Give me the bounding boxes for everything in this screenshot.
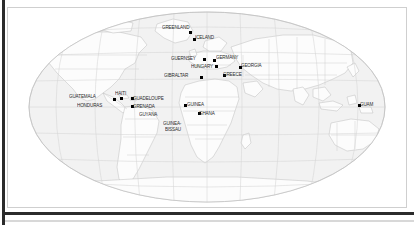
map-label-guam: GUAM <box>360 102 373 108</box>
map-label-greenland: GREENLAND <box>162 25 189 31</box>
gibraltar-marker[interactable] <box>200 76 203 79</box>
page-edge-bar-bottom-secondary <box>5 220 414 222</box>
guernsey-marker[interactable] <box>203 58 206 61</box>
map-label-guinea: GUINEA <box>187 102 204 108</box>
map-label-haiti: HAITI <box>115 91 126 97</box>
hungary-marker[interactable] <box>215 65 218 68</box>
map-label-guatemala: GUATEMALA <box>69 94 96 100</box>
page-root: GREENLAND ICELAND GUERNSEY GERMANY HUNGA… <box>0 0 414 225</box>
greenland-marker[interactable] <box>189 31 192 34</box>
map-label-guadeloupe: GUADELOUPE <box>133 96 164 102</box>
map-label-guernsey: GUERNSEY <box>171 56 196 62</box>
map-label-gibraltar: GIBRALTAR <box>164 73 188 79</box>
map-label-hungary: HUNGARY <box>191 64 213 70</box>
map-label-honduras: HONDURAS <box>77 103 102 109</box>
haiti-marker[interactable] <box>120 97 123 100</box>
map-label-greece: GREECE <box>223 72 242 78</box>
map-label-georgia: GEORGIA <box>241 63 262 69</box>
page-edge-bar-bottom <box>5 212 414 215</box>
map-label-germany: GERMANY <box>216 55 238 61</box>
map-label-grenada: GRENADA <box>133 104 155 110</box>
guatemala-marker[interactable] <box>113 98 116 101</box>
world-map[interactable]: GREENLAND ICELAND GUERNSEY GERMANY HUNGA… <box>7 7 407 208</box>
map-label-guinea-bissau-line2: BISSAU <box>165 127 181 133</box>
map-label-iceland: ICELAND <box>195 35 214 41</box>
map-label-guyana: GUYANA <box>139 112 157 118</box>
map-label-ghana: GHANA <box>199 111 215 117</box>
page-edge-bar-left <box>2 0 5 225</box>
